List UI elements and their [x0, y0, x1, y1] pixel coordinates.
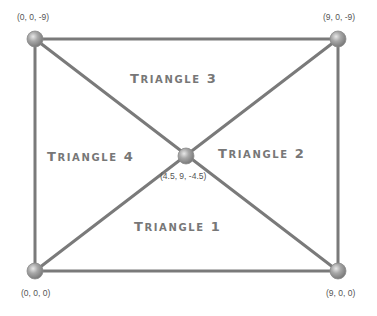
vertex-top-right	[330, 31, 346, 47]
vertex-bottom-left	[27, 263, 43, 279]
coord-label-top-left: (0, 0, -9)	[17, 12, 49, 22]
triangle-2-label: TRIANGLE 2	[218, 146, 305, 161]
coord-label-bottom-left: (0, 0, 0)	[21, 288, 50, 298]
coord-label-bottom-right: (9, 0, 0)	[326, 288, 355, 298]
vertex-bottom-right	[330, 263, 346, 279]
vertex-center	[178, 148, 194, 164]
triangle-3-label: TRIANGLE 3	[130, 71, 217, 86]
vertex-top-left	[27, 31, 43, 47]
coord-label-top-right: (9, 0, -9)	[323, 12, 355, 22]
triangle-4-label: TRIANGLE 4	[47, 149, 134, 164]
coord-label-center: (4.5, 9, -4.5)	[160, 171, 206, 181]
triangle-1-label: TRIANGLE 1	[134, 219, 221, 234]
